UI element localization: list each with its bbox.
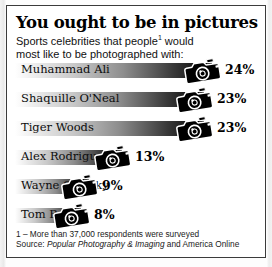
bar-value-label: 24%	[225, 62, 254, 78]
camera-icon	[176, 85, 216, 115]
horizontal-bar-chart: Muhammad Ali 24%Shaquille O'Neal 23%Tige…	[7, 59, 265, 231]
camera-icon	[94, 143, 134, 173]
bar-value-label: 23%	[217, 91, 246, 107]
chart-row: Tiger Woods 23%	[7, 117, 265, 146]
camera-icon	[61, 172, 101, 202]
chart-subtitle: Sports celebrities that people1 wouldmos…	[16, 35, 216, 60]
subtitle-line-2: most like to be photographed with:	[16, 48, 184, 60]
bar-value-label: 9%	[102, 178, 123, 194]
chart-row: Shaquille O'Neal 23%	[7, 88, 265, 117]
camera-icon	[176, 114, 216, 144]
infographic-page: You ought to be in pictures Sports celeb…	[0, 0, 272, 267]
bar-category-label: Shaquille O'Neal	[21, 91, 119, 106]
source-text: Source: Popular Photography & Imaging an…	[16, 239, 260, 249]
chart-panel: You ought to be in pictures Sports celeb…	[6, 5, 266, 258]
camera-icon	[184, 56, 224, 86]
chart-row: Muhammad Ali 24%	[7, 59, 265, 88]
camera-icon	[184, 56, 224, 86]
footnote-text: 1 – More than 37,000 respondents were su…	[16, 229, 260, 239]
source-publication: Popular Photography & Imaging	[47, 239, 165, 249]
camera-icon	[53, 201, 93, 231]
page-gutter-right	[267, 0, 272, 267]
bar-value-label: 23%	[217, 120, 246, 136]
camera-icon	[176, 114, 216, 144]
camera-icon	[53, 201, 93, 231]
chart-footer: 1 – More than 37,000 respondents were su…	[16, 229, 260, 249]
chart-header: You ought to be in pictures Sports celeb…	[16, 13, 216, 60]
camera-icon	[94, 143, 134, 173]
chart-row: Alex Rodriguez 13%	[7, 146, 265, 175]
subtitle-text-part1: Sports celebrities that people	[16, 35, 158, 47]
camera-icon	[176, 85, 216, 115]
source-suffix: and America Online	[165, 239, 240, 249]
bar-category-label: Muhammad Ali	[21, 62, 110, 77]
bar-category-label: Tiger Woods	[21, 120, 94, 135]
camera-icon	[61, 172, 101, 202]
page-title: You ought to be in pictures	[16, 13, 216, 32]
chart-row: Wayne Gretzky 9%	[7, 175, 265, 204]
bar-value-label: 13%	[135, 149, 164, 165]
source-prefix: Source:	[16, 239, 47, 249]
subtitle-text-part2: would	[162, 35, 194, 47]
bar-value-label: 8%	[94, 207, 115, 223]
